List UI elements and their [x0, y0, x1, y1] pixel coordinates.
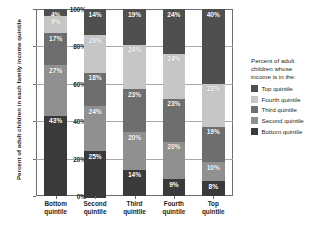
bars-layer: 4%9%17%27%43%14%20%18%24%25%19%24%23%20%…: [36, 9, 233, 196]
bar-segment-label: 20%: [84, 37, 107, 44]
legend-swatch-icon: [251, 128, 258, 135]
legend-item[interactable]: Fourth quintile: [251, 94, 322, 105]
bar-group[interactable]: 19%24%23%20%14%: [123, 9, 146, 196]
legend-swatch-icon: [251, 106, 258, 113]
bar-segment[interactable]: 24%: [123, 45, 146, 90]
bar-segment[interactable]: 20%: [84, 35, 107, 72]
bar-segment[interactable]: 24%: [84, 106, 107, 151]
x-tick-mark: [174, 196, 175, 199]
bar-segment[interactable]: 14%: [84, 9, 107, 35]
bar-segment[interactable]: 24%: [163, 54, 186, 99]
x-tick-label: Bottomquintile: [36, 200, 75, 215]
x-tick-label-line-2: quintile: [194, 208, 233, 216]
bar-segment[interactable]: 10%: [202, 162, 225, 181]
bar-segment[interactable]: 4%: [44, 9, 67, 16]
bar-segment-label: 24%: [163, 55, 186, 62]
bar-segment-label: 24%: [123, 46, 146, 53]
bar-segment-label: 24%: [163, 11, 186, 18]
bar-segment[interactable]: 19%: [123, 9, 146, 45]
bar-segment[interactable]: 24%: [163, 9, 186, 54]
stacked-bar-chart: Percent of adult children in each family…: [0, 0, 322, 232]
bar-segment-label: 19%: [202, 128, 225, 135]
bar-segment-label: 9%: [44, 18, 67, 25]
bar-segment[interactable]: 19%: [202, 127, 225, 163]
bar-segment-label: 10%: [202, 164, 225, 171]
bar-segment-label: 23%: [123, 91, 146, 98]
bar-segment[interactable]: 20%: [163, 142, 186, 179]
bar-segment[interactable]: 20%: [123, 132, 146, 169]
bar-segment[interactable]: 23%: [202, 84, 225, 127]
bar-segment-label: 14%: [84, 11, 107, 18]
bar-segment[interactable]: 9%: [44, 16, 67, 33]
bar-segment-label: 8%: [202, 183, 225, 190]
legend-item-label: Bottom quintile: [262, 128, 303, 135]
legend-item-label: Top quintile: [262, 85, 293, 92]
x-tick-mark: [95, 196, 96, 199]
bar-segment-label: 17%: [44, 35, 67, 42]
bar-segment-label: 18%: [84, 74, 107, 81]
legend-title-line-3: income is in the:: [251, 73, 322, 81]
x-tick-label: Thirdquintile: [115, 200, 154, 215]
bar-segment[interactable]: 9%: [163, 179, 186, 196]
bar-segment[interactable]: 14%: [123, 170, 146, 196]
bar-segment-label: 23%: [163, 100, 186, 107]
bar-segment-label: 27%: [44, 67, 67, 74]
legend-item[interactable]: Top quintile: [251, 83, 322, 94]
x-tick-label: Secondquintile: [75, 200, 114, 215]
bar-segment-label: 23%: [202, 85, 225, 92]
legend-swatch-icon: [251, 117, 258, 124]
legend-item-label: Third quintile: [262, 106, 297, 113]
x-tick-label-line-1: Bottom: [36, 200, 75, 208]
legend-item[interactable]: Second quintile: [251, 115, 322, 126]
bar-segment-label: 9%: [163, 181, 186, 188]
x-tick-label: Fourthquintile: [154, 200, 193, 215]
x-tick-mark: [213, 196, 214, 199]
bar-segment[interactable]: 43%: [44, 116, 67, 196]
bar-segment[interactable]: 25%: [84, 151, 107, 198]
legend-title: Percent of adult children whose income i…: [251, 57, 322, 80]
x-tick-label: Topquintile: [194, 200, 233, 215]
bar-segment-label: 14%: [123, 171, 146, 178]
legend: Percent of adult children whose income i…: [251, 57, 322, 136]
legend-title-line-2: children whose: [251, 65, 322, 73]
bar-segment-label: 43%: [44, 117, 67, 124]
x-tick-label-line-2: quintile: [154, 208, 193, 216]
bar-group[interactable]: 40%23%19%10%8%: [202, 9, 225, 196]
bar-segment[interactable]: 17%: [44, 33, 67, 65]
bar-segment-label: 24%: [84, 108, 107, 115]
bar-segment[interactable]: 23%: [163, 99, 186, 142]
legend-title-line-1: Percent of adult: [251, 57, 322, 65]
x-tick-label-line-2: quintile: [36, 208, 75, 216]
x-tick-mark: [56, 196, 57, 199]
bar-segment[interactable]: 40%: [202, 9, 225, 84]
legend-item-label: Second quintile: [262, 117, 304, 124]
bar-group[interactable]: 24%24%23%20%9%: [163, 9, 186, 196]
bar-segment-label: 40%: [202, 11, 225, 18]
bar-segment-label: 19%: [123, 11, 146, 18]
bar-segment-label: 20%: [123, 134, 146, 141]
x-tick-mark: [135, 196, 136, 199]
bar-segment[interactable]: 27%: [44, 65, 67, 115]
x-tick-label-line-1: Fourth: [154, 200, 193, 208]
y-axis-title: Percent of adult children in each family…: [15, 0, 22, 200]
legend-items: Top quintileFourth quintileThird quintil…: [251, 83, 322, 136]
bar-group[interactable]: 14%20%18%24%25%: [84, 9, 107, 196]
bar-segment[interactable]: 8%: [202, 181, 225, 196]
legend-swatch-icon: [251, 85, 258, 92]
x-tick-label-line-1: Top: [194, 200, 233, 208]
bar-group[interactable]: 4%9%17%27%43%: [44, 9, 67, 196]
y-tick-mark: [33, 196, 36, 197]
legend-item[interactable]: Bottom quintile: [251, 126, 322, 137]
x-tick-label-line-1: Third: [115, 200, 154, 208]
bar-segment-label: 25%: [84, 153, 107, 160]
x-tick-label-line-1: Second: [75, 200, 114, 208]
legend-item[interactable]: Third quintile: [251, 105, 322, 116]
bar-segment-label: 20%: [163, 143, 186, 150]
x-tick-label-line-2: quintile: [75, 208, 114, 216]
bar-segment[interactable]: 18%: [84, 73, 107, 107]
legend-item-label: Fourth quintile: [262, 96, 301, 103]
bar-segment[interactable]: 23%: [123, 89, 146, 132]
legend-swatch-icon: [251, 96, 258, 103]
x-tick-label-line-2: quintile: [115, 208, 154, 216]
